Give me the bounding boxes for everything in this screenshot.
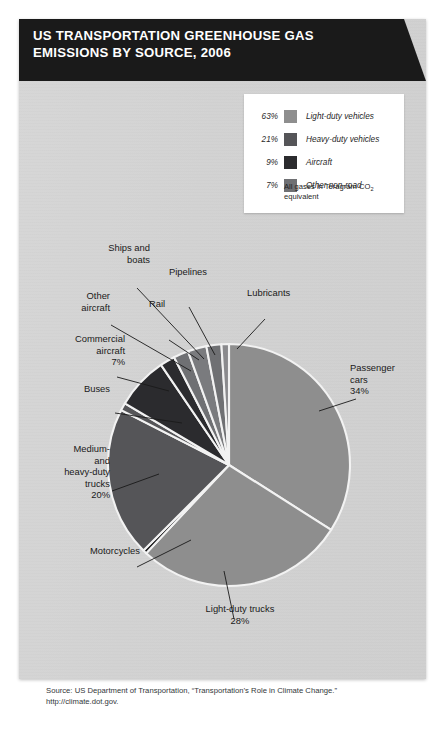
label-buses: Buses [10, 383, 110, 395]
label-medium-heavy-trucks: Medium-andheavy-dutytrucks20% [0, 443, 110, 501]
label-light-duty-trucks: Light-duty trucks28% [160, 603, 320, 626]
label-commercial-aircraft: Commercialaircraft7% [5, 333, 125, 368]
infographic-figure: US TRANSPORTATION GREENHOUSE GAS EMISSIO… [0, 0, 445, 735]
source-note: Source: US Department of Transportation,… [46, 685, 396, 707]
label-other-aircraft: Otheraircraft [10, 290, 110, 313]
source-line-2: http://climate.dot.gov. [46, 697, 119, 706]
label-pipelines: Pipelines [148, 266, 228, 278]
leader-line [237, 319, 265, 349]
label-passenger-cars: Passengercars34% [350, 362, 440, 397]
label-motorcycles: Motorcycles [20, 545, 140, 557]
label-ships-and-boats: Ships andboats [30, 242, 150, 265]
label-rail: Rail [130, 298, 184, 310]
label-lubricants: Lubricants [247, 287, 357, 299]
source-line-1: Source: US Department of Transportation,… [46, 686, 337, 695]
